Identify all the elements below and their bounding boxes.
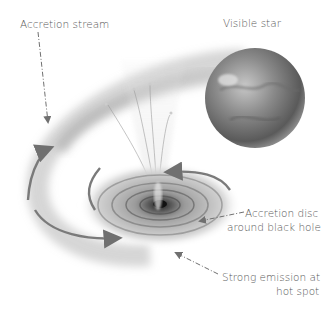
accretion-stream-leader [38,32,48,122]
label-accretion-stream: Accretion stream [20,17,109,31]
label-visible-star: Visible star [223,16,281,30]
diagram-artwork [0,0,328,312]
label-hotspot-line2: hot spot [276,284,319,298]
hotspot-leader [176,253,218,274]
label-hotspot-line1: Strong emission at [222,270,320,284]
visible-star [205,48,305,148]
label-disc-line2: around black hole [227,220,321,234]
label-disc-line1: Accretion disc [245,206,318,220]
hot-spot [228,232,248,248]
accretion-disc [80,163,248,248]
